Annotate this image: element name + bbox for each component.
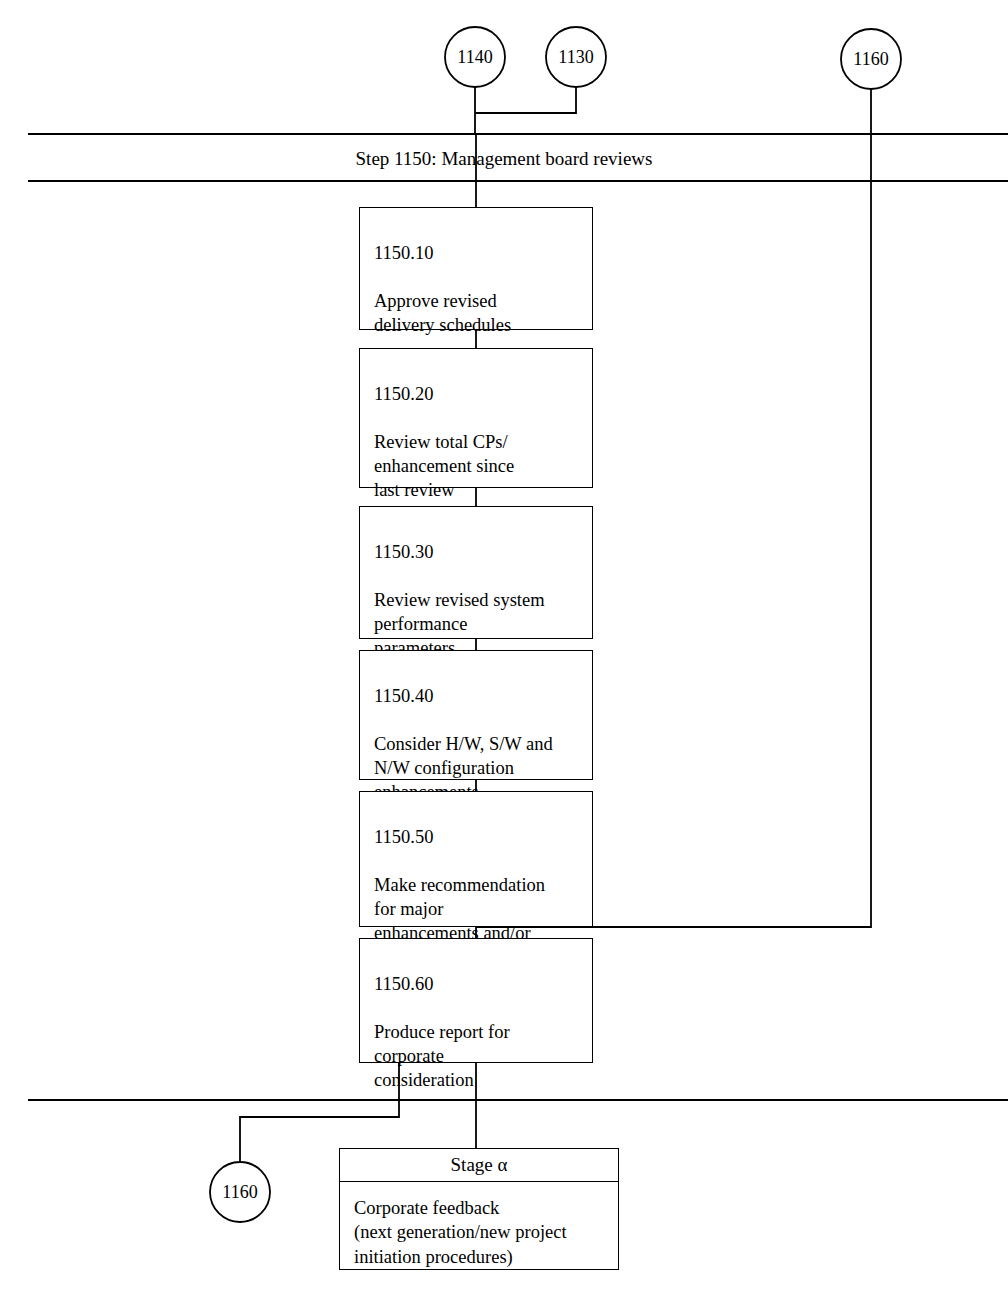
connector-label-1130[interactable]: 1130 xyxy=(545,48,607,66)
stage-header: Stage α xyxy=(340,1149,618,1182)
step-box-1150-50[interactable]: 1150.50 Make recommendation for major en… xyxy=(359,791,593,927)
step-box-1150-60[interactable]: 1150.60 Produce report for corporate con… xyxy=(359,938,593,1063)
step-text: Approve revised delivery schedules xyxy=(374,289,592,337)
edge-1130-to-spine xyxy=(475,87,576,113)
stage-box[interactable]: Stage α Corporate feedback (next generat… xyxy=(339,1148,619,1270)
step-number: 1150.20 xyxy=(374,382,592,406)
connector-label-1160-bottom[interactable]: 1160 xyxy=(209,1183,271,1201)
step-number: 1150.10 xyxy=(374,241,592,265)
step-box-1150-40[interactable]: 1150.40 Consider H/W, S/W and N/W config… xyxy=(359,650,593,780)
step-box-1150-30[interactable]: 1150.30 Review revised system performanc… xyxy=(359,506,593,639)
step-box-1150-10[interactable]: 1150.10 Approve revised delivery schedul… xyxy=(359,207,593,330)
step-number: 1150.60 xyxy=(374,972,592,996)
step-text: Produce report for corporate considerati… xyxy=(374,1020,592,1092)
step-number: 1150.30 xyxy=(374,540,592,564)
step-number: 1150.40 xyxy=(374,684,592,708)
step-text: Review total CPs/ enhancement since last… xyxy=(374,430,592,502)
band-title: Step 1150: Management board reviews xyxy=(0,148,1008,170)
connector-label-1140[interactable]: 1140 xyxy=(444,48,506,66)
connector-label-1160-top[interactable]: 1160 xyxy=(840,50,902,68)
stage-text: Corporate feedback (next generation/new … xyxy=(340,1182,618,1269)
step-box-1150-20[interactable]: 1150.20 Review total CPs/ enhancement si… xyxy=(359,348,593,488)
flowchart-page: 1140 1130 1160 1160 Step 1150: Managemen… xyxy=(0,0,1008,1304)
step-number: 1150.50 xyxy=(374,825,592,849)
